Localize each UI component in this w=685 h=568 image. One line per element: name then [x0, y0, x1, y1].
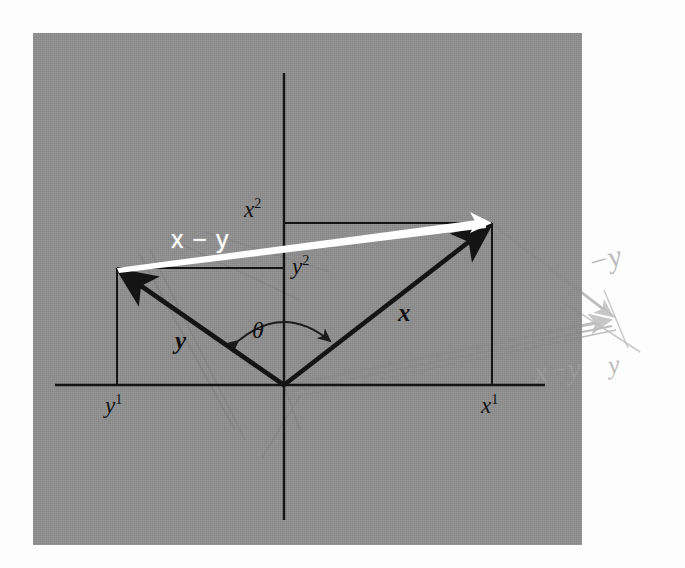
figure-root: x2 y2 y1 x1 y x θ x − y −y x−y y	[0, 0, 685, 568]
label-vector-y: y	[175, 328, 186, 353]
label-vector-x: x	[398, 300, 411, 325]
label-angle-theta: θ	[252, 318, 264, 342]
coordinate-axes	[55, 73, 545, 520]
label-y2: y2	[292, 255, 309, 278]
label-x1: x1	[481, 394, 498, 417]
vector-diagram-svg	[0, 0, 685, 568]
handwritten-x-minus-y: x−y	[533, 353, 583, 388]
vector-x-arrow	[284, 227, 488, 385]
label-x2: x2	[244, 198, 261, 221]
label-x-minus-y: x − y	[171, 227, 230, 252]
label-y1: y1	[105, 394, 122, 417]
